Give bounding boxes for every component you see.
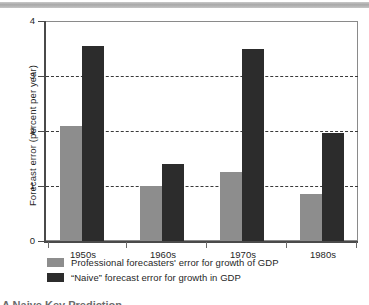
bar-group-1960s [140,21,190,241]
bar-naive-1980s [322,133,344,241]
top-divider-rule [0,2,369,8]
legend-swatch-professional-icon [47,258,64,267]
y-tick-label-4: 4 [30,15,35,26]
legend-swatch-naive-icon [47,273,64,282]
x-tick-label-1980s: 1980s [310,249,336,260]
bar-naive-1970s [242,49,264,242]
x-axis-line [44,241,358,243]
cropped-caption-text: A Naive Key Prediction [2,299,367,305]
bar-group-1970s [220,21,270,241]
bar-group-1980s [300,21,350,241]
bar-professional-1970s [220,172,242,241]
bar-professional-1960s [140,186,162,241]
x-tick-mark-1 [126,242,127,248]
legend-label-naive: “Naive” forecast error for growth in GDP [71,272,241,283]
bar-naive-1950s [82,46,104,241]
bar-group-1950s [60,21,110,241]
y-tick-label-2: 2 [30,125,35,136]
y-tick-label-3: 3 [30,70,35,81]
bar-naive-1960s [162,164,184,241]
x-tick-mark-3 [286,242,287,248]
y-tick-label-1: 1 [30,180,35,191]
bar-professional-1950s [60,126,82,242]
chart-legend: Professional forecasters' error for grow… [47,255,279,285]
bar-professional-1980s [300,194,322,241]
legend-item-naive: “Naive” forecast error for growth in GDP [47,270,279,284]
legend-label-professional: Professional forecasters' error for grow… [71,257,279,268]
legend-item-professional: Professional forecasters' error for grow… [47,255,279,269]
x-tick-mark-0 [48,242,49,248]
x-tick-mark-4 [356,242,357,248]
x-tick-mark-2 [206,242,207,248]
y-tick-label-0: 0 [30,235,35,246]
